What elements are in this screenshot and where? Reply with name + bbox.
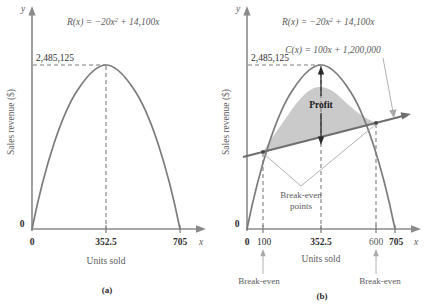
panel-a-revenue-equation: R(x) = −20x2 + 14,100x bbox=[66, 16, 160, 28]
panel-b-x-intercept-label: 705 bbox=[389, 237, 404, 247]
panel-b-caption: (b) bbox=[317, 291, 328, 301]
panel-b-break-even-points-label-line1: Break-even bbox=[280, 190, 322, 200]
panel-b-revenue-equation-prefix: R(x) = −20x bbox=[281, 17, 330, 28]
panel-b-y-axis-variable: y bbox=[235, 4, 241, 14]
panel-b-break-even-left-label: Break-even bbox=[238, 276, 280, 286]
panel-b-profit-label: Profit bbox=[309, 100, 333, 110]
figure-root: y x R(x) = −20x2 + 14,100x 2,485,125 0 0… bbox=[0, 0, 430, 308]
panel-a-y-origin-label: 0 bbox=[20, 219, 25, 229]
panel-b-revenue-equation-suffix: + 14,100x bbox=[333, 17, 375, 27]
panel-b-break-even-left-leader bbox=[260, 249, 265, 274]
panel-a-y-axis bbox=[28, 6, 35, 231]
panel-a-x-axis-title: Units sold bbox=[87, 256, 126, 266]
panel-b-break-even-right-leader bbox=[373, 249, 378, 274]
panel-b-break-even-left-x-label: 100 bbox=[257, 237, 272, 247]
panel-b-x-axis-title: Units sold bbox=[302, 254, 341, 264]
panel-b-y-origin-label: 0 bbox=[235, 219, 240, 229]
panel-b-y-axis-title: Sales revenue ($) bbox=[221, 89, 232, 155]
panel-a-x-axis-variable: x bbox=[198, 237, 204, 247]
panel-a-revenue-equation-prefix: R(x) = −20x bbox=[66, 17, 115, 28]
panel-a-revenue-equation-suffix: + 14,100x bbox=[118, 17, 160, 27]
panel-a-y-axis-title: Sales revenue ($) bbox=[6, 89, 17, 155]
panel-b-revenue-equation: R(x) = −20x2 + 14,100x bbox=[281, 16, 375, 28]
panel-b-profit-region bbox=[263, 87, 376, 152]
panel-b-break-even-points-label-line2: points bbox=[290, 201, 313, 211]
panel-a-y-axis-variable: y bbox=[20, 4, 26, 14]
panel-a-vertex-x-label: 352.5 bbox=[95, 237, 117, 247]
panel-b-break-even-right-label: Break-even bbox=[359, 276, 401, 286]
panel-a-x-intercept-label: 705 bbox=[173, 237, 188, 247]
panel-b: y x R(x) = −20x2 + 14,100x C(x) = 100x +… bbox=[215, 0, 430, 308]
panel-b-x-origin-label: 0 bbox=[245, 237, 250, 247]
panel-a-x-origin-label: 0 bbox=[30, 237, 35, 247]
panel-b-x-axis-variable: x bbox=[413, 237, 419, 247]
panel-b-y-axis bbox=[243, 6, 250, 231]
panel-b-cost-equation: C(x) = 100x + 1,200,000 bbox=[285, 45, 381, 56]
panel-b-max-value-label: 2,485,125 bbox=[251, 53, 289, 63]
panel-a-caption: (a) bbox=[102, 285, 113, 295]
panel-b-vertex-x-label: 352.5 bbox=[310, 237, 332, 247]
panel-b-cost-label-leader bbox=[383, 58, 397, 118]
panel-a: y x R(x) = −20x2 + 14,100x 2,485,125 0 0… bbox=[0, 0, 215, 308]
panel-b-break-even-right-x-label: 600 bbox=[369, 237, 384, 247]
panel-a-max-value-label: 2,485,125 bbox=[36, 53, 74, 63]
